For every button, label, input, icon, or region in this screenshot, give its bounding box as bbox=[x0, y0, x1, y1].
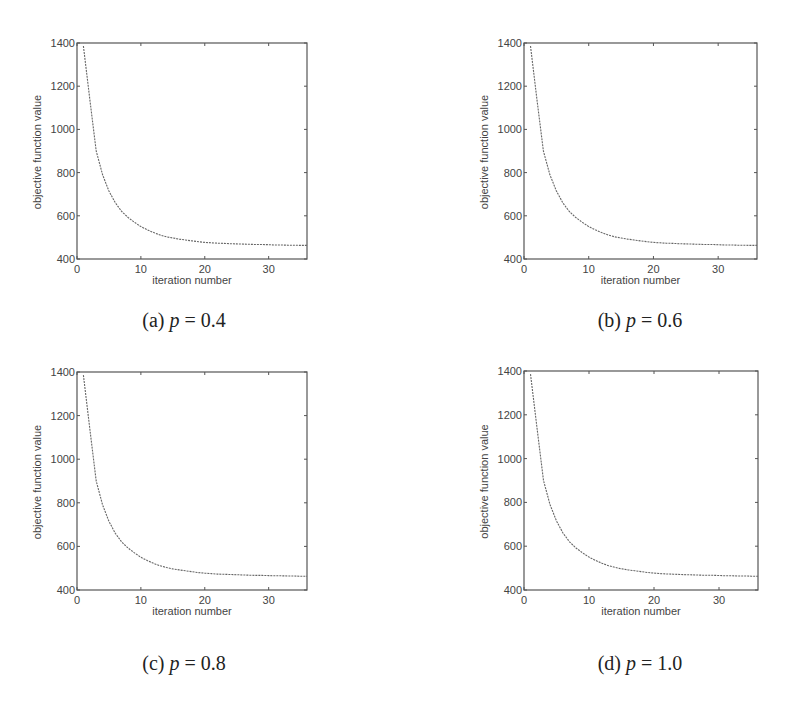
y-tick-label: 1200 bbox=[498, 409, 522, 421]
x-tick-label: 10 bbox=[583, 594, 595, 606]
y-tick-label: 400 bbox=[504, 584, 522, 596]
caption-c-var: p bbox=[169, 652, 179, 674]
plot-frame bbox=[524, 371, 758, 590]
caption-c-prefix: (c) bbox=[142, 652, 164, 674]
objective-curve bbox=[531, 374, 759, 576]
y-tick-label: 800 bbox=[504, 496, 522, 508]
y-tick-label: 600 bbox=[504, 540, 522, 552]
line-chart-d: 0102030400600800100012001400iteration nu… bbox=[0, 0, 804, 640]
y-tick-label: 1400 bbox=[498, 365, 522, 377]
caption-d-value: 1.0 bbox=[657, 652, 682, 674]
caption-d: (d) p = 1.0 bbox=[540, 652, 740, 675]
caption-d-eq: = bbox=[641, 652, 652, 674]
caption-c-eq: = bbox=[184, 652, 195, 674]
caption-d-prefix: (d) bbox=[598, 652, 621, 674]
x-axis-label: iteration number bbox=[601, 605, 681, 617]
y-tick-label: 1000 bbox=[498, 453, 522, 465]
caption-c-value: 0.8 bbox=[201, 652, 226, 674]
chart-panel-d: 0102030400600800100012001400iteration nu… bbox=[0, 0, 804, 640]
y-axis-label: objective function value bbox=[478, 424, 490, 538]
caption-d-var: p bbox=[626, 652, 636, 674]
caption-c: (c) p = 0.8 bbox=[84, 652, 284, 675]
x-tick-label: 30 bbox=[713, 594, 725, 606]
